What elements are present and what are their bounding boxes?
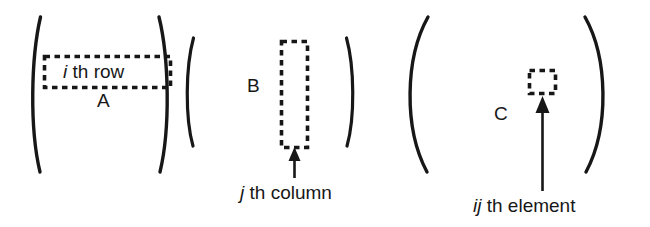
column-callout-text: th column [250, 182, 332, 203]
column-callout-label: j th column [240, 183, 332, 202]
matrix-a-left-paren [33, 17, 41, 172]
matrix-b-left-paren [187, 38, 193, 146]
matrix-c-right-paren [585, 17, 603, 172]
column-highlight-box [282, 42, 308, 148]
matrix-b-right-paren [347, 38, 353, 146]
element-callout-text: th element [487, 195, 576, 216]
element-callout-label: ij th element [473, 196, 575, 215]
matrix-b-name: B [247, 76, 260, 95]
matrix-structure-figure: i th row A B j th column C ij th element [0, 0, 650, 227]
row-label-text: th row [73, 61, 125, 82]
element-callout-arrow-head [536, 96, 550, 113]
matrix-a-right-paren [159, 17, 167, 172]
element-highlight-box [530, 71, 556, 94]
matrix-b-group [187, 38, 353, 178]
row-highlight-label: i th row [63, 62, 124, 81]
matrix-a-name: A [97, 91, 110, 110]
matrix-c-name: C [494, 104, 508, 123]
matrix-c-left-paren [410, 17, 428, 172]
